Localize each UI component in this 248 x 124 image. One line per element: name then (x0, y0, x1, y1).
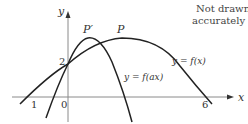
y-intercept-label: 2 (59, 56, 65, 67)
y-axis-arrow-icon (66, 11, 71, 18)
graph-diagram: y x 2 0 1 6 P′ P y = f(x) y = f(ax) Not … (0, 0, 248, 124)
curve-f-ax-label: y = f(ax) (123, 72, 164, 82)
peak-p-prime-label: P′ (82, 23, 93, 36)
note-line-1: Not drawn (196, 3, 248, 14)
x-tick-right-label: 6 (202, 99, 208, 110)
origin-label: 0 (61, 99, 67, 110)
peak-p-label: P (116, 23, 125, 36)
x-tick-left-label: 1 (31, 99, 37, 110)
x-axis-label: x (238, 91, 245, 104)
curve-f-label: y = f(x) (171, 56, 206, 66)
y-axis-label: y (57, 5, 65, 18)
curve-f-ax (46, 38, 132, 122)
note-line-2: accurately (192, 15, 245, 26)
x-axis-arrow-icon (227, 95, 234, 100)
